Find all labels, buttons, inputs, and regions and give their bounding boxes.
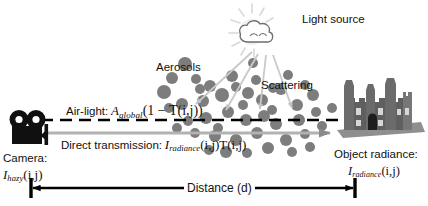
scattering-label: Scattering (261, 79, 313, 92)
distance-label: Distance (d) (184, 182, 255, 195)
air-light-subscript: global (119, 110, 143, 120)
air-light-formula: Air-light: Aglobal(1 − T(i,j)) (66, 103, 203, 120)
radiance-subscript: radiance (352, 170, 381, 179)
aerosols-label: Aerosols (156, 61, 201, 74)
direct-transmission-formula: Direct transmission: Iradiance(i,j)T(i,j… (61, 138, 246, 154)
castle-building-icon (335, 78, 427, 140)
direct-transmission-prefix: Direct transmission: (61, 139, 162, 151)
object-radiance-formula: Iradiance(i,j) (348, 165, 400, 180)
camera-label: Camera: (3, 152, 47, 165)
hazy-subscript: hazy (7, 173, 23, 183)
video-camera-icon (6, 108, 54, 150)
direct-transmission-body: (i,j)T(i,j) (200, 137, 246, 152)
hazy-body: (i,j) (23, 167, 42, 182)
light-source-label: Light source (302, 13, 365, 26)
air-light-body: (1 − T(i,j)) (143, 103, 203, 118)
radiance-body: (i,j) (381, 164, 399, 178)
haze-model-diagram: Light source Aerosols Scattering Camera:… (0, 0, 428, 206)
direct-transmission-subscript: radiance (169, 143, 200, 153)
air-light-symbol: A (111, 103, 119, 118)
sun-behind-cloud-icon (226, 2, 298, 60)
air-light-prefix: Air-light: (66, 105, 108, 117)
hazy-image-formula: Ihazy(i,j) (3, 168, 42, 184)
object-radiance-label: Object radiance: (334, 148, 418, 161)
